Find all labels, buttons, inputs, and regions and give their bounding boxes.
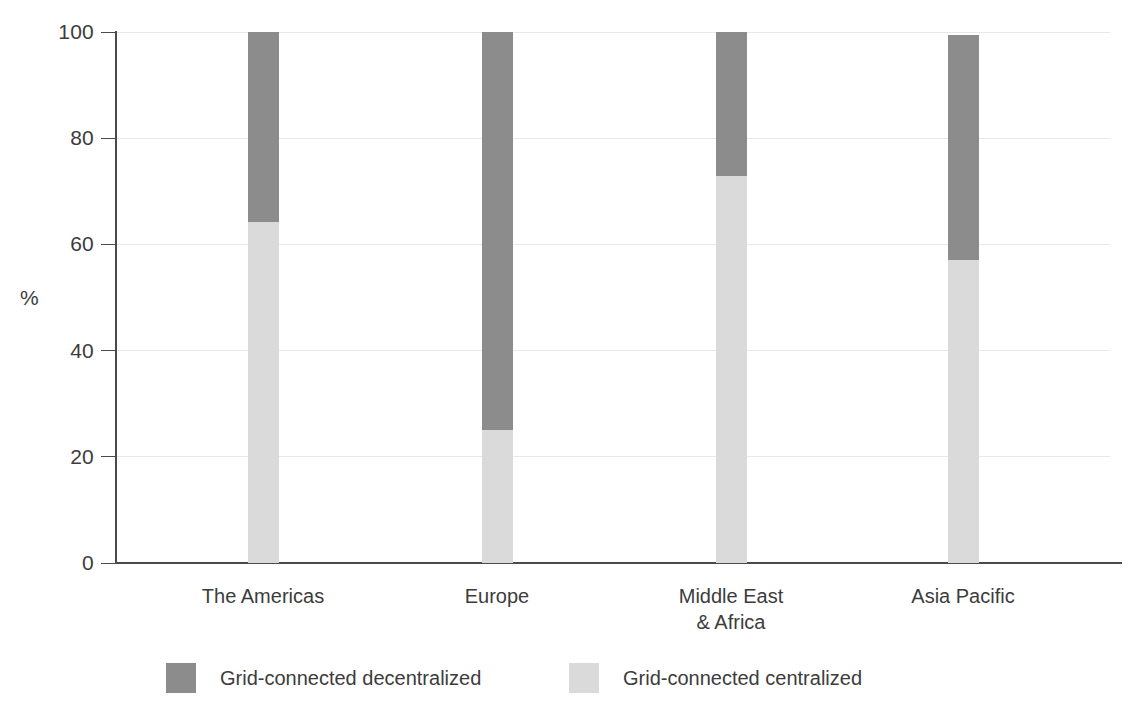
legend-item[interactable]: Grid-connected decentralized <box>166 660 481 696</box>
bar-segment-centralized <box>482 430 513 563</box>
bar-segment-centralized <box>716 176 747 563</box>
stacked-bar-chart: % 100806040200 The AmericasEuropeMiddle … <box>0 0 1130 725</box>
y-axis-tick-label: 60 <box>24 233 94 254</box>
y-axis-tick <box>101 456 116 457</box>
bar-group <box>716 32 747 563</box>
bar-segment-centralized <box>248 222 279 563</box>
bar-group <box>948 32 979 563</box>
y-axis-tick-label: 100 <box>24 21 94 42</box>
x-axis-category-label: Asia Pacific <box>833 583 1093 609</box>
legend-swatch-icon <box>166 663 196 693</box>
y-axis-tick <box>101 563 116 564</box>
legend-label: Grid-connected decentralized <box>220 668 481 688</box>
bar-segment-centralized <box>948 260 979 563</box>
bar-group <box>248 32 279 563</box>
legend-label: Grid-connected centralized <box>623 668 862 688</box>
bar-segment-decentralized <box>248 32 279 222</box>
x-axis-category-label: The Americas <box>133 583 393 609</box>
y-axis-tick-label: 20 <box>24 446 94 467</box>
y-axis-title: % <box>20 287 39 308</box>
legend-item[interactable]: Grid-connected centralized <box>569 660 862 696</box>
bar-segment-decentralized <box>482 32 513 430</box>
y-axis-tick <box>101 350 116 351</box>
bar-segment-decentralized <box>716 32 747 176</box>
y-axis-tick <box>101 244 116 245</box>
bar-segment-decentralized <box>948 35 979 260</box>
bar-group <box>482 32 513 563</box>
y-axis-tick <box>101 138 116 139</box>
y-axis-tick-label: 40 <box>24 340 94 361</box>
chart-legend: Grid-connected decentralizedGrid-connect… <box>0 660 1130 700</box>
x-axis-category-label: Europe <box>367 583 627 609</box>
x-axis-category-label: Middle East & Africa <box>601 583 861 635</box>
legend-swatch-icon <box>569 663 599 693</box>
plot-area <box>115 32 1122 563</box>
y-axis-tick-label: 0 <box>24 552 94 573</box>
y-axis-tick-label: 80 <box>24 127 94 148</box>
y-axis-tick <box>101 32 116 33</box>
